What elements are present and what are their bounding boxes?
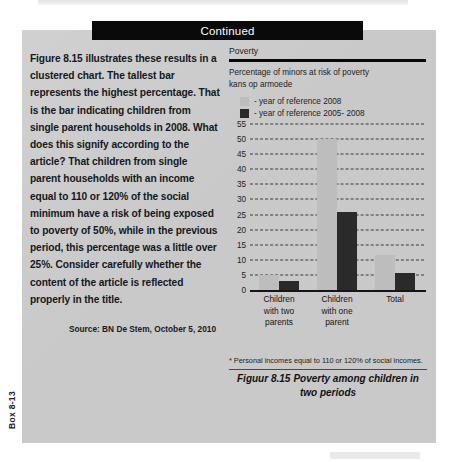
y-axis-tick-label: 20 (237, 225, 246, 234)
scan-artifact-top (38, 0, 408, 5)
article-body: Figure 8.15 illustrates these results in… (30, 50, 220, 308)
article-column: Figure 8.15 illustrates these results in… (30, 50, 220, 334)
y-axis-tick-label: 40 (237, 165, 246, 174)
y-axis-tick-label: 55 (237, 120, 246, 129)
x-axis-category-line: with two (251, 306, 307, 318)
chart-title-rule (229, 59, 426, 62)
legend-item: - year of reference 2005- 2008 (229, 109, 429, 118)
figure-caption-text: Poverty among children in two periods (293, 373, 419, 398)
bar (317, 139, 337, 290)
continued-label: Continued (200, 25, 254, 37)
bar (259, 275, 279, 290)
legend-swatch-icon (240, 109, 249, 118)
continued-header-bar: Continued (92, 21, 363, 40)
x-axis-category-line: Children (309, 294, 365, 306)
bar-group (259, 124, 299, 290)
bar-group (317, 124, 357, 290)
chart-title: Poverty (229, 46, 429, 56)
x-axis-category-line: parents (251, 317, 307, 329)
x-axis-category-label: Total (367, 294, 423, 329)
chart-subtitle: Percentage of minors at risk of povertyk… (229, 67, 419, 90)
x-axis-category-line: with one (309, 306, 365, 318)
y-axis-tick-label: 10 (237, 255, 246, 264)
legend-item: - year of reference 2008 (229, 97, 429, 106)
figure-caption: Figuur 8.15Poverty among children in two… (229, 372, 427, 400)
x-axis-category-label: Childrenwith oneparent (309, 294, 365, 329)
chart-plot: 0510152025303540455055 Childrenwith twop… (229, 124, 427, 302)
box-side-tab: Box 8-13 (2, 378, 22, 442)
bars-layer (250, 124, 424, 290)
figure-caption-number: Figuur 8.15 (237, 373, 290, 384)
plot-area (250, 124, 424, 290)
y-axis-ticks: 0510152025303540455055 (229, 124, 246, 290)
y-axis-tick-label: 0 (241, 286, 246, 295)
legend-swatch-icon (240, 97, 249, 106)
y-axis-tick-label: 50 (237, 135, 246, 144)
chart-subtitle-line: kans op armoede (229, 79, 419, 91)
article-paragraph: Figure 8.15 illustrates these results in… (30, 50, 220, 308)
x-axis-category-line: Children (251, 294, 307, 306)
bar (279, 281, 299, 290)
bar (337, 212, 357, 290)
x-axis-category-line: Total (367, 294, 423, 306)
y-axis-tick-label: 15 (237, 240, 246, 249)
bar-group (375, 124, 415, 290)
y-axis-tick-label: 25 (237, 210, 246, 219)
y-axis-tick-label: 45 (237, 150, 246, 159)
article-source: Source: BN De Stem, October 5, 2010 (30, 324, 220, 334)
figure-footnote: * Personal incomes equal to 110 or 120% … (229, 356, 427, 370)
bar (395, 273, 415, 290)
x-axis-category-line: parent (309, 317, 365, 329)
legend-label: - year of reference 2005- 2008 (254, 109, 365, 118)
legend-label: - year of reference 2008 (254, 97, 341, 106)
x-axis-category-label: Childrenwith twoparents (251, 294, 307, 329)
chart-legend: - year of reference 2008- year of refere… (229, 97, 429, 118)
chart-subtitle-line: Percentage of minors at risk of poverty (229, 67, 419, 79)
x-axis-labels: Childrenwith twoparentsChildrenwith onep… (250, 294, 424, 329)
scan-artifact-bottom (330, 452, 420, 459)
y-axis-tick-label: 5 (241, 270, 246, 279)
y-axis-tick-label: 35 (237, 180, 246, 189)
x-axis-line (250, 290, 426, 292)
y-axis-tick-label: 30 (237, 195, 246, 204)
bar (375, 255, 395, 290)
box-side-tab-label: Box 8-13 (7, 391, 17, 429)
chart-panel: Poverty Percentage of minors at risk of … (229, 46, 429, 391)
